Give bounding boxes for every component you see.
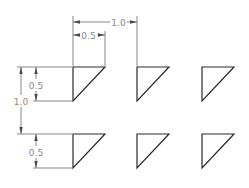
arrowhead-icon (34, 67, 37, 74)
arrowhead-icon (73, 33, 80, 36)
dimension-horizontal-spacing: 1.0 (73, 16, 137, 28)
arrowhead-icon (19, 67, 22, 74)
triangle-r2-c3 (202, 134, 234, 168)
triangle-r1-c3 (202, 67, 234, 101)
triangle-r2-c2 (137, 134, 169, 168)
arrowhead-icon (130, 20, 137, 23)
triangle-r1-c1 (73, 67, 105, 101)
arrowhead-icon (34, 94, 37, 101)
horizontal-dimensions: 1.0 0.5 (73, 16, 137, 66)
triangle-r2-c1 (73, 134, 105, 168)
arrowhead-icon (19, 127, 22, 134)
vertical-dimensions: 1.0 0.5 0.5 (12, 67, 72, 168)
vertical-height-bottom-label: 0.5 (29, 148, 43, 158)
dimension-vertical-height-bottom: 0.5 (27, 134, 45, 168)
vertical-height-top-label: 0.5 (29, 81, 43, 91)
arrowhead-icon (98, 33, 105, 36)
triangle-r1-c2 (137, 67, 169, 101)
arrowhead-icon (73, 20, 80, 23)
horizontal-width-label: 0.5 (81, 31, 95, 41)
dimension-vertical-spacing: 1.0 (12, 67, 30, 134)
arrowhead-icon (34, 161, 37, 168)
triangle-array (73, 67, 234, 168)
arrowhead-icon (34, 134, 37, 141)
vertical-spacing-label: 1.0 (14, 97, 29, 107)
horizontal-spacing-label: 1.0 (111, 18, 126, 28)
array-diagram: 1.0 0.5 1.0 0.5 (0, 0, 249, 188)
dimension-horizontal-width: 0.5 (73, 29, 105, 41)
